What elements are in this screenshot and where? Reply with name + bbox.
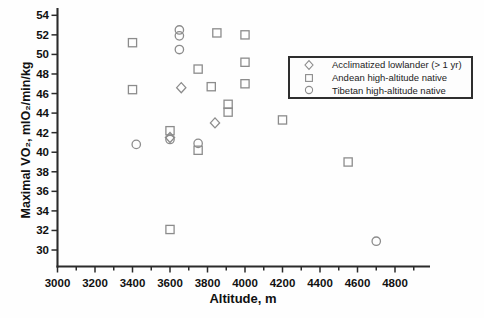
marker-square [224,100,232,108]
y-tick-label: 52 [36,29,49,41]
y-tick-label: 54 [36,9,49,21]
marker-diamond [210,118,219,128]
x-tick-label: 4000 [232,277,258,289]
marker-square [213,29,221,37]
x-tick-label: 4400 [307,277,333,289]
marker-circle [175,32,183,40]
legend: Acclimatized lowlander (> 1 yr) Andean h… [288,56,473,99]
x-tick-label: 3600 [157,277,183,289]
marker-square [278,116,286,124]
x-axis-tick-labels: 3000320034003600380040004200440046004800 [45,277,408,289]
legend-item-andean: Andean high-altitude native [290,72,471,84]
y-tick-label: 42 [36,127,49,139]
y-tick-label: 32 [36,224,49,236]
scatter-plot: 3032343638404244464850525430003200340036… [0,0,484,318]
y-tick-label: 50 [36,48,49,60]
legend-label-lowlander: Acclimatized lowlander (> 1 yr) [332,59,462,70]
x-tick-label: 3800 [195,277,221,289]
y-tick-label: 38 [36,166,49,178]
y-axis-title: Maximal VO₂, mlO₂/min/kg [19,62,33,219]
circle-icon [302,84,316,96]
legend-label-tibetan: Tibetan high-altitude native [332,85,446,96]
y-tick-label: 40 [36,146,49,158]
legend-item-lowlander: Acclimatized lowlander (> 1 yr) [290,59,471,71]
legend-item-tibetan: Tibetan high-altitude native [290,84,471,96]
y-tick-label: 44 [36,107,49,119]
marker-square [128,39,136,47]
y-tick-label: 36 [36,185,49,197]
marker-diamond [177,83,186,93]
x-tick-label: 4600 [345,277,371,289]
x-tick-label: 3400 [120,277,146,289]
marker-square [194,65,202,73]
marker-square [344,158,352,166]
marker-square [207,83,215,91]
axes [57,8,431,268]
y-tick-label: 30 [36,244,49,256]
marker-circle [132,140,140,148]
marker-circle [372,237,380,245]
marker-square [128,86,136,94]
marker-square [241,80,249,88]
marker-circle [175,45,183,53]
y-tick-label: 48 [36,68,49,80]
x-tick-label: 4800 [382,277,408,289]
x-tick-label: 3200 [82,277,108,289]
marker-square [224,108,232,116]
marker-square [241,58,249,66]
y-tick-label: 34 [36,205,49,217]
x-axis-title: Altitude, m [209,291,276,306]
y-axis-tick-labels: 30323436384042444648505254 [36,9,49,256]
diamond-icon [302,59,316,71]
x-tick-label: 4200 [270,277,296,289]
marker-square [241,31,249,39]
square-icon [302,72,316,84]
y-tick-label: 46 [36,88,49,100]
legend-label-andean: Andean high-altitude native [332,72,447,83]
marker-square [166,127,174,135]
marker-square [166,225,174,233]
figure-canvas: 3032343638404244464850525430003200340036… [0,0,484,318]
x-tick-label: 3000 [45,277,71,289]
